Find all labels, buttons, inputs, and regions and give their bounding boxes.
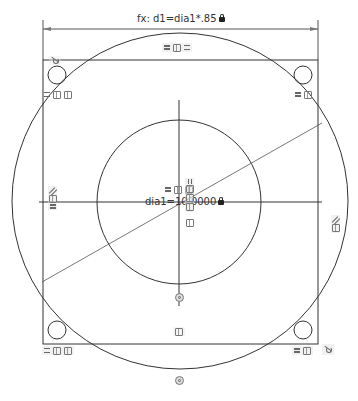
equal-constraint-icon[interactable] bbox=[295, 92, 301, 97]
equal-constraint-icon[interactable] bbox=[50, 204, 56, 209]
tangent-constraint-icon[interactable] bbox=[324, 347, 332, 353]
concentric-constraint-icon[interactable] bbox=[175, 376, 184, 385]
constraints-top-center[interactable] bbox=[162, 43, 192, 52]
coincident-constraint-icon[interactable] bbox=[186, 219, 194, 227]
corner-circle-bottom-right[interactable] bbox=[294, 321, 312, 339]
coincident-constraint-icon[interactable] bbox=[49, 195, 57, 203]
coincident-constraint-icon[interactable] bbox=[175, 328, 183, 336]
coincident-constraint-icon[interactable] bbox=[304, 91, 312, 99]
dimension-d1-text: fx: d1=dia1*.85 bbox=[137, 13, 217, 24]
constraint-top-left-corner[interactable] bbox=[49, 56, 61, 65]
equal-constraint-icon[interactable] bbox=[164, 45, 170, 50]
constraint-bottom-right-corner[interactable] bbox=[322, 344, 334, 355]
constraints-bottom-left[interactable] bbox=[42, 346, 74, 355]
corner-circle-bottom-left[interactable] bbox=[48, 321, 66, 339]
equal-constraint-icon[interactable] bbox=[44, 348, 50, 353]
constraints-top-right[interactable] bbox=[293, 90, 314, 99]
equal-constraint-icon[interactable] bbox=[184, 45, 190, 50]
constraints-bottom-right[interactable] bbox=[292, 346, 313, 355]
coincident-constraint-icon[interactable] bbox=[303, 347, 311, 355]
constraints-right-mid[interactable] bbox=[331, 215, 340, 233]
dimension-arrow-right bbox=[310, 27, 318, 31]
equal-constraint-icon[interactable] bbox=[44, 92, 50, 97]
corner-circle-top-right[interactable] bbox=[294, 66, 312, 84]
constraints-top-left[interactable] bbox=[42, 90, 74, 99]
coincident-constraint-icon[interactable] bbox=[186, 203, 194, 211]
perpendicular-constraint-icon[interactable] bbox=[188, 179, 192, 184]
coincident-constraint-icon[interactable] bbox=[332, 224, 340, 232]
constraint-center-lower[interactable] bbox=[184, 218, 196, 227]
dimension-dia1-text: dia1=10.0000 bbox=[145, 196, 216, 207]
coincident-constraint-icon[interactable] bbox=[174, 186, 182, 194]
equal-constraint-icon[interactable] bbox=[165, 187, 171, 192]
tangent-constraint-icon[interactable] bbox=[51, 58, 59, 64]
parallel-constraint-icon[interactable] bbox=[49, 187, 56, 194]
coincident-constraint-icon[interactable] bbox=[173, 44, 181, 52]
coincident-constraint-icon[interactable] bbox=[64, 91, 72, 99]
coincident-constraint-icon[interactable] bbox=[186, 194, 194, 202]
corner-circle-top-left[interactable] bbox=[48, 66, 66, 84]
constraints-left-mid[interactable] bbox=[48, 186, 57, 210]
coincident-constraint-icon[interactable] bbox=[53, 347, 61, 355]
lock-icon bbox=[219, 17, 225, 22]
constraint-bottom-mid[interactable] bbox=[173, 327, 185, 336]
concentric-constraint-icon[interactable] bbox=[175, 293, 184, 302]
lock-icon bbox=[218, 200, 224, 205]
dimension-arrow-left bbox=[43, 27, 51, 31]
parallel-constraint-icon[interactable] bbox=[332, 216, 339, 223]
coincident-constraint-icon[interactable] bbox=[64, 347, 72, 355]
equal-constraint-icon[interactable] bbox=[294, 348, 300, 353]
dimension-d1-label[interactable]: fx: d1=dia1*.85 bbox=[136, 13, 226, 25]
coincident-constraint-icon[interactable] bbox=[53, 91, 61, 99]
constraints-center-vertical[interactable] bbox=[185, 178, 194, 212]
coincident-constraint-icon[interactable] bbox=[186, 185, 194, 193]
